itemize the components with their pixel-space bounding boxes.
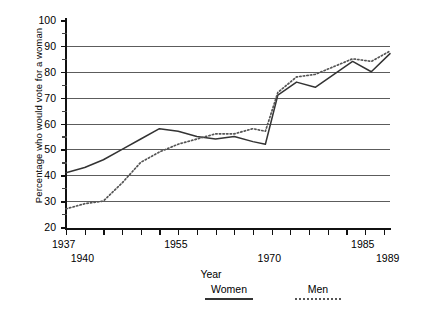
data-series-lines — [66, 20, 390, 227]
x-tick-label: 1940 — [71, 252, 94, 264]
y-tick-label: 20 — [30, 222, 56, 232]
y-axis-title: Percentage who would vote for a woman — [33, 8, 44, 224]
x-tick — [253, 229, 254, 235]
x-tick — [197, 229, 198, 235]
y-tick-label: 30 — [30, 196, 56, 206]
legend-label-men: Men — [285, 283, 351, 295]
x-tick-label: 1955 — [164, 238, 187, 250]
x-tick — [178, 229, 179, 235]
x-tick — [122, 229, 123, 235]
legend-item-men: Men — [285, 283, 351, 300]
x-tick — [365, 229, 366, 235]
legend-item-women: Women — [196, 283, 262, 300]
x-tick — [346, 229, 347, 235]
x-tick — [141, 229, 142, 235]
x-tick — [290, 229, 291, 235]
y-tick-label: 50 — [30, 144, 56, 154]
y-tick-label: 40 — [30, 170, 56, 180]
x-tick-label: 1989 — [376, 252, 399, 264]
legend-swatch-dotted-icon — [294, 298, 342, 300]
chart-legend: Women Men — [0, 283, 422, 311]
legend-swatch-solid-icon — [205, 298, 253, 300]
y-tick-label: 60 — [30, 119, 56, 129]
x-tick-label: 1985 — [351, 238, 374, 250]
x-tick — [234, 229, 235, 235]
x-tick — [328, 229, 329, 235]
series-line-women — [66, 54, 390, 173]
chart-figure: Percentage who would vote for a woman 10… — [0, 0, 422, 317]
series-line-men — [66, 51, 390, 209]
x-tick — [159, 229, 160, 235]
x-tick — [85, 229, 86, 235]
x-tick-label: 1970 — [258, 252, 281, 264]
plot-area — [66, 20, 390, 227]
x-tick — [384, 229, 385, 235]
y-tick-label: 80 — [30, 67, 56, 77]
legend-label-women: Women — [196, 283, 262, 295]
y-tick-label: 90 — [30, 41, 56, 51]
x-tick — [272, 229, 273, 235]
x-tick — [103, 229, 104, 235]
x-axis-title: Year — [0, 268, 422, 280]
x-tick — [216, 229, 217, 235]
y-tick-label: 70 — [30, 93, 56, 103]
x-tick — [66, 229, 67, 235]
y-tick-label: 100 — [30, 15, 56, 25]
x-tick-label: 1937 — [52, 238, 75, 250]
x-axis-ticks — [66, 229, 390, 237]
x-tick — [309, 229, 310, 235]
